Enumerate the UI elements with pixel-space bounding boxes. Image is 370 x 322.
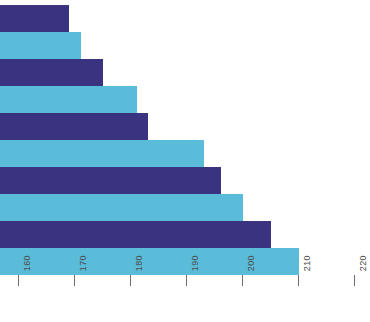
- bar[interactable]: [0, 86, 137, 113]
- x-tick-label: 160: [23, 255, 32, 289]
- x-tick-mark: [130, 275, 131, 286]
- x-tick-mark: [354, 275, 355, 286]
- bar[interactable]: [0, 5, 69, 32]
- x-tick-mark: [186, 275, 187, 286]
- x-tick-label: 200: [247, 255, 256, 289]
- x-tick-mark: [298, 275, 299, 286]
- bar-row: [0, 5, 69, 32]
- x-axis: 160170180190200210220: [0, 275, 370, 322]
- bar-row: [0, 32, 81, 59]
- bar-row: [0, 86, 137, 113]
- bar[interactable]: [0, 32, 81, 59]
- bar[interactable]: [0, 221, 271, 248]
- bar[interactable]: [0, 167, 221, 194]
- bar-row: [0, 113, 148, 140]
- bar-chart: 160170180190200210220: [0, 0, 370, 322]
- x-tick-label: 170: [79, 255, 88, 289]
- bar[interactable]: [0, 59, 103, 86]
- bar[interactable]: [0, 140, 204, 167]
- bar[interactable]: [0, 113, 148, 140]
- x-tick-label: 210: [303, 255, 312, 289]
- x-tick-mark: [74, 275, 75, 286]
- bar-row: [0, 167, 221, 194]
- x-tick-mark: [242, 275, 243, 286]
- x-tick-mark: [18, 275, 19, 286]
- x-tick-label: 180: [135, 255, 144, 289]
- bar-row: [0, 194, 243, 221]
- bar-row: [0, 59, 103, 86]
- plot-area: [0, 0, 370, 275]
- bar-row: [0, 221, 271, 248]
- bar-row: [0, 140, 204, 167]
- x-tick-label: 190: [191, 255, 200, 289]
- bar[interactable]: [0, 194, 243, 221]
- x-tick-label: 220: [359, 255, 368, 289]
